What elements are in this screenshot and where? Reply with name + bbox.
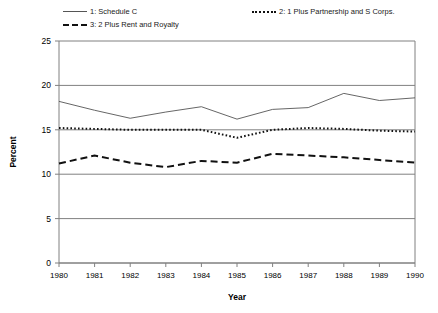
x-axis-title: Year	[228, 292, 247, 302]
y-tick-label: 5	[46, 214, 51, 224]
x-tick-label: 1987	[299, 271, 317, 280]
y-axis-title: Percent	[8, 136, 18, 167]
y-gridlines	[59, 85, 415, 263]
x-tick-labels: 1980198119821983198419851986198719881989…	[50, 271, 424, 280]
x-tick-marks	[59, 263, 415, 267]
x-tick-label: 1982	[121, 271, 139, 280]
y-tick-label: 10	[42, 169, 52, 179]
x-tick-label: 1988	[335, 271, 353, 280]
x-tick-label: 1983	[157, 271, 175, 280]
x-tick-label: 1986	[264, 271, 282, 280]
y-tick-label: 0	[46, 258, 51, 268]
y-tick-label: 25	[42, 36, 52, 46]
chart-container: 1: Schedule C 2: 1 Plus Partnership and …	[0, 0, 438, 313]
series-line-1	[59, 93, 415, 119]
x-tick-label: 1981	[86, 271, 104, 280]
y-tick-label: 15	[42, 125, 52, 135]
plot-frame	[59, 41, 415, 263]
y-tick-labels: 0510152025	[42, 36, 52, 268]
chart-plot: 0510152025 19801981198219831984198519861…	[0, 0, 438, 313]
x-tick-label: 1980	[50, 271, 68, 280]
x-tick-label: 1984	[193, 271, 211, 280]
x-tick-label: 1985	[228, 271, 246, 280]
x-tick-label: 1990	[406, 271, 424, 280]
y-tick-marks	[55, 41, 59, 263]
y-tick-label: 20	[42, 80, 52, 90]
x-tick-label: 1989	[371, 271, 389, 280]
series-line-3	[59, 154, 415, 167]
